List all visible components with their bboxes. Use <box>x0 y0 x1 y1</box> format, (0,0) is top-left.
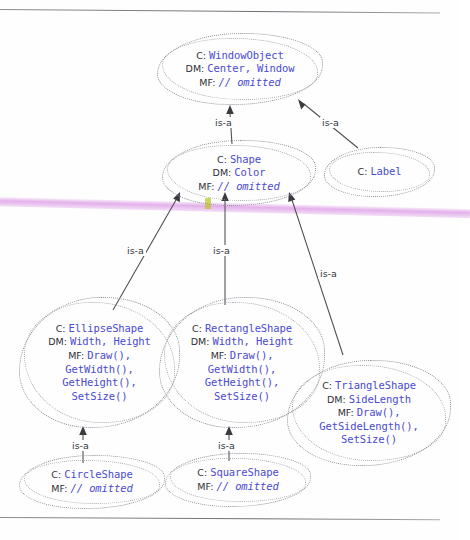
data-members-tag: DM: <box>327 394 349 405</box>
data-members-value: Width, Height <box>212 335 293 347</box>
class-tag: C: <box>196 50 209 61</box>
class-tag: C: <box>358 166 371 177</box>
member-functions-line-1: GetWidth(), <box>65 363 133 375</box>
member-functions-line-3: SetSize() <box>214 390 270 402</box>
member-functions-value: // omitted <box>216 480 278 492</box>
data-members-row: DM: SideLength <box>327 393 411 407</box>
class-node-ellipseshape[interactable]: C: EllipseShape DM: Width, Height MF: Dr… <box>22 300 177 425</box>
data-members-row: DM: Color <box>213 166 266 180</box>
edge-label-label-is-a: is-a <box>320 117 341 128</box>
edge-label-rectangleshape-is-a: is-a <box>211 245 232 256</box>
member-functions-tag: MF: <box>51 483 70 494</box>
data-members-value: Color <box>234 166 265 178</box>
class-name-row: C: RectangleShape <box>192 322 292 336</box>
edge-label-circleshape-is-a: is-a <box>70 440 91 451</box>
class-name: CircleShape <box>64 468 132 480</box>
class-name: SquareShape <box>210 466 278 478</box>
edge-label-squareshape-is-a: is-a <box>216 440 237 451</box>
member-functions-row: GetWidth(), <box>208 363 276 377</box>
member-functions-line-0: Draw(), <box>87 349 131 361</box>
class-name: WindowObject <box>209 49 284 61</box>
class-name: RectangleShape <box>205 322 292 334</box>
data-members-row: DM: Width, Height <box>48 335 151 349</box>
class-name-row: C: SquareShape <box>197 466 278 480</box>
data-members-value: SideLength <box>349 393 411 405</box>
member-functions-tag: MF: <box>211 350 230 361</box>
member-functions-row: GetHeight(), <box>205 376 280 390</box>
member-functions-value: // omitted <box>218 76 280 88</box>
member-functions-line-3: SetSize() <box>72 390 128 402</box>
member-functions-row: MF: // omitted <box>51 482 132 496</box>
edge-label-triangleshape-is-a: is-a <box>318 268 339 279</box>
class-node-circleshape[interactable]: C: CircleShape MF: // omitted <box>22 458 162 506</box>
class-node-windowobject[interactable]: C: WindowObject DM: Center, Window MF: /… <box>160 36 320 102</box>
member-functions-row: MF: Draw(), <box>68 349 131 363</box>
class-tag: C: <box>192 323 205 334</box>
member-functions-tag: MF: <box>197 481 216 492</box>
data-members-value: Center, Window <box>207 62 294 74</box>
class-tag: C: <box>197 467 210 478</box>
member-functions-line-2: SetSize() <box>341 433 397 445</box>
class-node-squareshape[interactable]: C: SquareShape MF: // omitted <box>168 456 308 504</box>
member-functions-value: // omitted <box>70 482 132 494</box>
class-name-row: C: Shape <box>217 153 261 167</box>
class-name-row: C: CircleShape <box>51 468 132 482</box>
data-members-value: Width, Height <box>70 335 151 347</box>
data-members-row: DM: Center, Window <box>186 62 295 76</box>
class-tag: C: <box>56 323 69 334</box>
member-functions-row: MF: Draw(), <box>338 406 401 420</box>
class-name: EllipseShape <box>69 322 144 334</box>
edge-label-ellipseshape-is-a: is-a <box>125 245 146 256</box>
class-node-label[interactable]: C: Label <box>327 150 432 194</box>
member-functions-line-0: Draw(), <box>357 406 401 418</box>
class-name-row: C: TriangleShape <box>322 379 416 393</box>
class-name: TriangleShape <box>335 379 416 391</box>
member-functions-row: GetSideLength(), <box>319 420 419 434</box>
class-name: Shape <box>230 153 261 165</box>
data-members-tag: DM: <box>213 167 235 178</box>
member-functions-line-2: GetHeight(), <box>205 376 280 388</box>
class-node-triangleshape[interactable]: C: TriangleShape DM: SideLength MF: Draw… <box>290 363 448 463</box>
member-functions-line-1: GetSideLength(), <box>319 420 419 432</box>
member-functions-row: SetSize() <box>341 433 397 447</box>
member-functions-value: // omitted <box>217 180 279 192</box>
data-members-tag: DM: <box>186 63 208 74</box>
data-members-row: DM: Width, Height <box>191 335 294 349</box>
class-tag: C: <box>51 469 64 480</box>
class-node-shape[interactable]: C: Shape DM: Color MF: // omitted <box>165 143 313 203</box>
member-functions-row: SetSize() <box>72 390 128 404</box>
data-members-tag: DM: <box>191 336 213 347</box>
member-functions-row: GetWidth(), <box>65 363 133 377</box>
data-members-tag: DM: <box>48 336 70 347</box>
member-functions-tag: MF: <box>68 350 87 361</box>
member-functions-line-1: GetWidth(), <box>208 363 276 375</box>
member-functions-row: GetHeight(), <box>62 376 137 390</box>
member-functions-line-0: Draw(), <box>230 349 274 361</box>
member-functions-row: MF: // omitted <box>199 76 280 90</box>
class-name-row: C: WindowObject <box>196 49 284 63</box>
member-functions-line-2: GetHeight(), <box>62 376 137 388</box>
member-functions-tag: MF: <box>198 181 217 192</box>
member-functions-row: MF: // omitted <box>197 480 278 494</box>
member-functions-row: SetSize() <box>214 390 270 404</box>
edge-label-shape-is-a: is-a <box>213 117 234 128</box>
edge-ellipseshape-to-shape <box>113 192 180 310</box>
class-tag: C: <box>322 380 335 391</box>
class-tag: C: <box>217 154 230 165</box>
member-functions-tag: MF: <box>199 77 218 88</box>
member-functions-row: MF: // omitted <box>198 180 279 194</box>
member-functions-tag: MF: <box>338 407 357 418</box>
class-name: Label <box>370 165 401 177</box>
member-functions-row: MF: Draw(), <box>211 349 274 363</box>
class-name-row: C: Label <box>358 165 402 179</box>
class-name-row: C: EllipseShape <box>56 322 144 336</box>
